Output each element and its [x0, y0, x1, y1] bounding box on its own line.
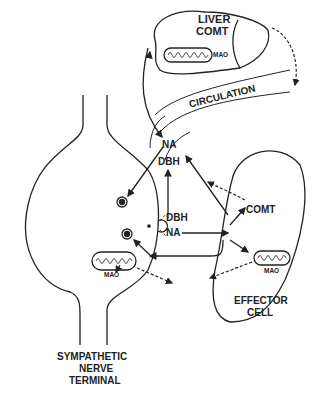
mao-effector-label: MAO: [264, 268, 279, 275]
effector-mitochondrion: [254, 251, 290, 265]
diagram-canvas: [0, 0, 316, 397]
liver-mao-label: MAO: [213, 52, 228, 59]
na-release-label: NA: [166, 228, 180, 239]
liver-label: LIVER: [198, 14, 230, 26]
mao-nerve-label: MAO: [104, 272, 119, 279]
nerve-terminal-label-3: TERMINAL: [69, 376, 121, 387]
nerve-mitochondrion: [92, 252, 136, 270]
na-circulation-label: NA: [162, 140, 176, 151]
nerve-terminal-label-1: SYMPATHETIC: [57, 352, 127, 363]
effector-cell-label-2: CELL: [247, 308, 273, 319]
liver-comt-label: COMT: [196, 26, 228, 38]
dbh-circulation-label: DBH: [158, 157, 180, 168]
dbh-release-label: DBH: [166, 213, 188, 224]
nerve-terminal-outline: [26, 95, 83, 345]
nerve-terminal-label-2: NERVE: [79, 364, 113, 375]
comt-effector-label: COMT: [246, 205, 275, 216]
effector-cell-label-1: EFFECTOR: [234, 296, 288, 307]
